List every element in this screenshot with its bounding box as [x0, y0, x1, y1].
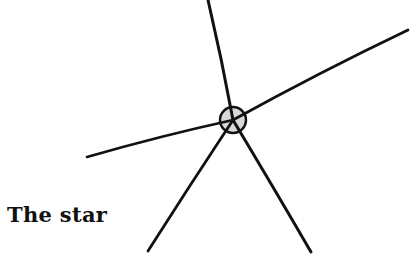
ray-lower-right	[233, 120, 311, 252]
ray-upper-right	[233, 30, 408, 120]
star-diagram: The star	[0, 0, 411, 259]
figure-caption: The star	[7, 202, 107, 227]
ray-top	[208, 0, 233, 120]
ray-lower-left	[148, 120, 233, 251]
